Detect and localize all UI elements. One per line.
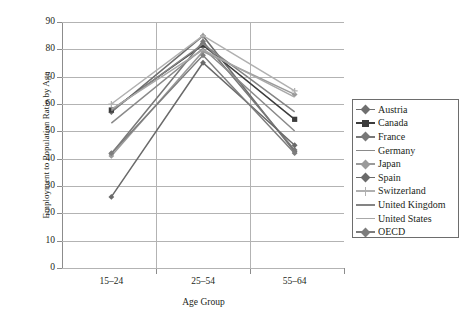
legend-swatch-icon <box>356 131 375 143</box>
legend-item-austria[interactable]: Austria <box>356 103 458 117</box>
y-tick-label: 50 <box>31 126 55 136</box>
legend-item-japan[interactable]: Japan <box>356 157 458 171</box>
x-tick-label: 25–54 <box>163 276 243 286</box>
legend-swatch-icon <box>356 104 375 116</box>
y-tick-label: 0 <box>31 263 55 273</box>
legend-item-label: Germany <box>378 145 415 157</box>
x-tick-mark <box>156 269 157 274</box>
legend-item-switzerland[interactable]: Switzerland <box>356 185 458 199</box>
legend-item-label: Austria <box>378 104 407 116</box>
legend-item-canada[interactable]: Canada <box>356 117 458 131</box>
y-tick-label: 20 <box>31 208 55 218</box>
legend-item-united-kingdom[interactable]: United Kingdom <box>356 198 458 212</box>
x-tick-label: 55–64 <box>255 276 335 286</box>
y-axis-title-wrap: Employment to Population Ratio by Age <box>18 20 32 270</box>
legend-item-spain[interactable]: Spain <box>356 171 458 185</box>
y-tick-label: 80 <box>31 44 55 54</box>
legend-item-label: France <box>378 131 405 143</box>
legend-item-label: OECD <box>378 226 405 238</box>
y-tick-label: 30 <box>31 181 55 191</box>
legend-item-label: Switzerland <box>378 185 426 197</box>
line-chart: Employment to Population Ratio by Age 90… <box>0 0 467 332</box>
x-tick-label: 15–24 <box>71 276 151 286</box>
legend-swatch-icon <box>356 226 375 238</box>
legend-swatch-icon <box>356 158 375 170</box>
legend-swatch-icon <box>356 213 375 225</box>
legend-item-label: Japan <box>378 158 401 170</box>
legend-swatch-icon <box>356 145 375 157</box>
legend-item-france[interactable]: France <box>356 130 458 144</box>
y-tick-label: 90 <box>31 17 55 27</box>
legend-swatch-icon <box>356 199 375 211</box>
y-tick-label: 60 <box>31 99 55 109</box>
legend: AustriaCanadaFranceGermanyJapanSpainSwit… <box>352 99 459 238</box>
series-line <box>111 55 294 153</box>
y-tick-label: 40 <box>31 154 55 164</box>
series-line <box>111 52 294 156</box>
legend-swatch-icon <box>356 172 375 184</box>
legend-item-united-states[interactable]: United States <box>356 212 458 226</box>
legend-item-label: United Kingdom <box>378 199 446 211</box>
data-point-marker <box>292 117 297 122</box>
legend-swatch-icon <box>356 185 375 197</box>
legend-swatch-icon <box>356 117 375 129</box>
x-tick-mark <box>250 269 251 274</box>
legend-item-label: Spain <box>378 172 401 184</box>
y-tick-label: 10 <box>31 236 55 246</box>
y-tick-label: 70 <box>31 72 55 82</box>
gridline-horizontal <box>62 268 344 269</box>
legend-item-germany[interactable]: Germany <box>356 144 458 158</box>
x-axis-title: Age Group <box>62 297 345 307</box>
legend-item-label: United States <box>378 213 432 225</box>
legend-item-label: Canada <box>378 117 408 129</box>
x-tick-mark <box>344 269 345 274</box>
legend-item-oecd[interactable]: OECD <box>356 225 458 239</box>
series-layer <box>62 22 344 268</box>
y-axis-title: Employment to Population Ratio by Age <box>41 20 51 270</box>
